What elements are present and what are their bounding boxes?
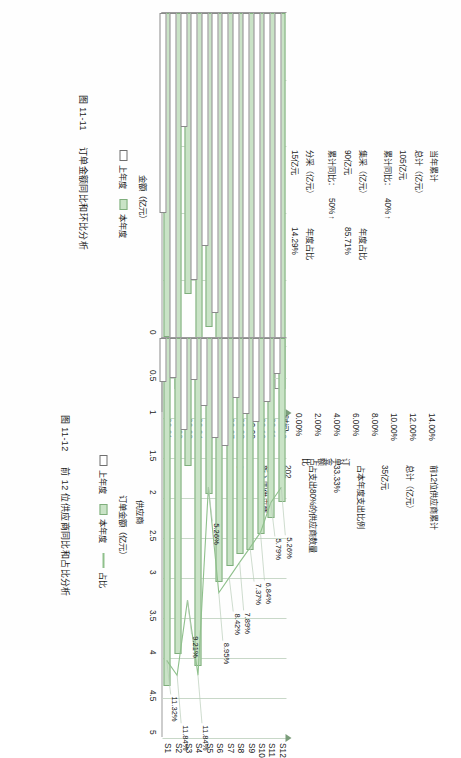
- kpi-label-share-of-spend: 占本年度支出比例: [354, 465, 364, 553]
- chart2-percent-tick-label: 2.00%: [312, 413, 321, 436]
- chart2-legend: 上年度 本年度 占比: [97, 455, 109, 588]
- kpi-label-supplier-count-80: 占支出80%的供应商数量: [306, 465, 316, 553]
- legend-label-current-year: 本年度: [117, 214, 129, 238]
- chart2-value-tick-label: 0.5: [147, 370, 156, 381]
- kpi-row-central: 集采（亿元） 年度占比: [356, 150, 366, 260]
- chart2-caption: 图 11-12 前 12 位供应商同比和占比分析: [58, 415, 71, 597]
- chart2-value-tick-label: 4: [147, 650, 156, 655]
- kpi-label-local: 分采（亿元）: [303, 150, 313, 198]
- kpi-row-total: 总计（亿元）: [412, 150, 422, 260]
- chart2-label-leader-line: [197, 675, 201, 723]
- chart2-percent-tick-label: 14.00%: [426, 413, 435, 441]
- chart2-label-leader-line: [270, 502, 274, 536]
- kpi-label-total: 总计（亿元）: [412, 150, 422, 198]
- chart2-share-line: [161, 337, 286, 737]
- chart1-bar-previous-year: [169, 13, 176, 361]
- chart1-bar-previous-year: [159, 13, 166, 213]
- chart1-bar-previous-year: [201, 13, 208, 246]
- chart1-bar-previous-year: [211, 13, 218, 313]
- panel-suppliers: 前12位供应商累计 总计（亿元） 35亿元 占本年度支出比例 33.33% 占支…: [0, 325, 461, 650]
- chart1-legend: 上年度 本年度: [117, 150, 129, 238]
- chart2-label-leader-line: [218, 593, 222, 641]
- chart2-value-tick-label: 4.5: [147, 690, 156, 701]
- kpi-heading-suppliers: 前12位供应商累计: [427, 465, 437, 553]
- chart2-caption-number: 图 11-12: [59, 415, 69, 452]
- chart2-share-data-label: 9.21%: [190, 636, 199, 658]
- kpi-block-order-amount: 当年累计 总计（亿元） 105亿元 累计同比： 40% 集采（亿元） 年度占比: [273, 150, 438, 260]
- chart1-caption: 图 11-11 订单金额同比和环比分析: [76, 95, 89, 250]
- legend-swatch-previous-year-icon: [119, 150, 127, 161]
- chart2-share-data-label: 7.37%: [253, 584, 262, 606]
- chart2-percent-tick-label: 10.00%: [388, 413, 397, 441]
- kpi-label-central: 集采（亿元）: [356, 150, 366, 198]
- panel-order-amount: 当年累计 总计（亿元） 105亿元 累计同比： 40% 集采（亿元） 年度占比: [0, 0, 461, 325]
- chart2-category-label: S9: [246, 743, 256, 753]
- chart2-label-leader-line: [187, 600, 191, 634]
- chart2-share-data-label: 8.42%: [232, 614, 241, 636]
- chart2-share-data-label: 6.84%: [263, 582, 272, 604]
- kpi-compare-label-central: 累计同比：: [325, 150, 335, 190]
- chart2-category-label: S12: [277, 743, 287, 758]
- chart2-percent-axis-title: 订单金额占比: [301, 456, 349, 464]
- chart2-label-leader-line: [239, 562, 243, 610]
- legend2-swatch-current-year-icon: [99, 504, 107, 515]
- chart2-y-axis-title: 订单金额（亿元）: [117, 495, 129, 559]
- chart1-caption-text: 订单金额同比和环比分析: [77, 147, 87, 250]
- chart2-value-tick-label: 1.5: [147, 450, 156, 461]
- kpi-compare-value-total: 40%: [381, 198, 391, 219]
- kpi-row-local: 分采（亿元） 年度占比: [303, 150, 313, 260]
- kpi-compare-value-central: 50%: [325, 198, 335, 219]
- kpi-heading: 当年累计: [427, 150, 437, 260]
- kpi-values-local: 15亿元 14.29%: [288, 150, 298, 260]
- chart2-x-axis-title: 供应商: [134, 500, 146, 524]
- chart2-value-tick-label: 0: [147, 330, 156, 335]
- chart2-share-data-label: 11.84%: [200, 725, 209, 750]
- chart-suppliers: 00.511.522.533.544.55S1S2S3S4S5S6S7S8S9S…: [161, 337, 286, 737]
- chart2-caption-text: 前 12 位供应商同比和占比分析: [59, 467, 69, 596]
- chart2-category-label: S8: [235, 743, 245, 753]
- chart2-percent-tick-label: 8.00%: [369, 413, 378, 436]
- chart2-percent-tick-label: 4.00%: [331, 413, 340, 436]
- chart2-value-tick-label: 3: [147, 570, 156, 575]
- kpi-share-label-local: 年度占比: [303, 228, 313, 260]
- chart2-share-data-label: 5.79%: [273, 538, 282, 560]
- legend2-label-previous-year: 上年度: [97, 470, 109, 494]
- chart2-category-label: S1: [162, 743, 172, 753]
- chart1-bar-previous-year: [190, 13, 197, 280]
- chart2-value-tick-label: 3.5: [147, 610, 156, 621]
- legend2-label-current-year: 本年度: [97, 519, 109, 543]
- chart2-share-data-label: 11.84%: [180, 725, 189, 750]
- kpi-share-value-local: 14.29%: [288, 227, 298, 255]
- chart2-category-label: S7: [225, 743, 235, 753]
- kpi-compare-central: 累计同比： 50%: [325, 150, 335, 260]
- kpi-share-label-central: 年度占比: [356, 228, 366, 260]
- chart2-share-data-label: 7.89%: [242, 612, 251, 634]
- chart2-label-leader-line: [250, 548, 254, 582]
- legend2-swatch-share-line-icon: [102, 553, 104, 568]
- chart2-share-data-label: 11.32%: [169, 696, 178, 721]
- chart2-value-tick-label: 1: [147, 410, 156, 415]
- chart2-share-data-label: 8.95%: [221, 643, 230, 665]
- kpi-value-central: 90亿元: [341, 150, 351, 175]
- chart2-percent-tick-label: 0.00%: [293, 413, 302, 436]
- chart2-category-label: S10: [256, 743, 266, 758]
- chart2-value-tick-label: 2: [147, 490, 156, 495]
- legend-label-previous-year: 上年度: [117, 165, 129, 189]
- chart2-label-leader-line: [260, 532, 264, 580]
- chart1-y-axis-title: 金额（亿元）: [137, 175, 149, 223]
- kpi-value-share-of-spend: 33.33%: [330, 465, 340, 553]
- kpi-label-total-suppliers: 总计（亿元）: [403, 465, 413, 553]
- chart2-value-tick-label: 5: [147, 730, 156, 735]
- chart2-label-leader-line: [229, 578, 233, 612]
- chart2-category-label: S11: [266, 743, 276, 757]
- kpi-value-local: 15亿元: [288, 150, 298, 175]
- chart2-share-data-label: 5.26%: [284, 537, 293, 559]
- chart1-caption-number: 图 11-11: [77, 95, 87, 131]
- legend-swatch-current-year-icon: [119, 199, 127, 210]
- legend2-label-share: 占比: [97, 572, 109, 588]
- chart2-percent-tick-label: 6.00%: [350, 413, 359, 436]
- legend2-swatch-previous-year-icon: [99, 455, 107, 466]
- chart2-share-data-label: 5.26%: [211, 523, 220, 545]
